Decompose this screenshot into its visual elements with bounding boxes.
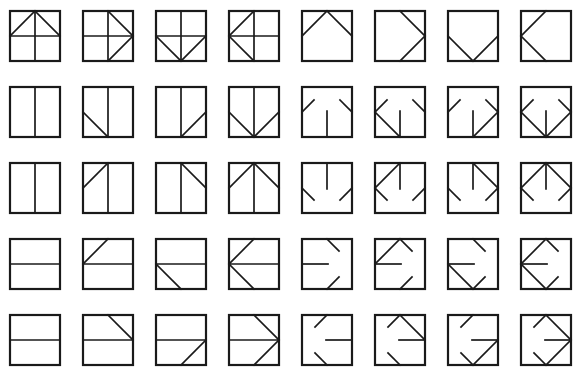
glyph-r1-c6 <box>374 10 426 62</box>
glyph-r2-c4 <box>228 86 280 138</box>
glyph-r1-c3 <box>155 10 207 62</box>
glyph-r5-c1 <box>9 314 61 366</box>
glyph-r2-c8 <box>520 86 572 138</box>
glyph-r1-c1 <box>9 10 61 62</box>
glyph-r4-c3 <box>155 238 207 290</box>
glyph-r2-c6 <box>374 86 426 138</box>
glyph-r3-c8 <box>520 162 572 214</box>
glyph-r3-c2 <box>82 162 134 214</box>
glyph-grid <box>0 0 576 373</box>
glyph-r4-c8 <box>520 238 572 290</box>
glyph-r5-c8 <box>520 314 572 366</box>
glyph-r2-c7 <box>447 86 499 138</box>
glyph-r5-c5 <box>301 314 353 366</box>
glyph-r2-c1 <box>9 86 61 138</box>
glyph-r3-c6 <box>374 162 426 214</box>
glyph-r1-c4 <box>228 10 280 62</box>
glyph-r2-c5 <box>301 86 353 138</box>
glyph-r3-c5 <box>301 162 353 214</box>
glyph-r4-c7 <box>447 238 499 290</box>
glyph-r4-c6 <box>374 238 426 290</box>
glyph-r1-c8 <box>520 10 572 62</box>
glyph-r3-c1 <box>9 162 61 214</box>
glyph-r2-c2 <box>82 86 134 138</box>
glyph-r4-c4 <box>228 238 280 290</box>
glyph-r5-c6 <box>374 314 426 366</box>
glyph-r1-c2 <box>82 10 134 62</box>
glyph-r5-c4 <box>228 314 280 366</box>
glyph-r3-c7 <box>447 162 499 214</box>
glyph-r4-c2 <box>82 238 134 290</box>
glyph-r3-c4 <box>228 162 280 214</box>
glyph-r5-c2 <box>82 314 134 366</box>
glyph-r2-c3 <box>155 86 207 138</box>
glyph-r1-c7 <box>447 10 499 62</box>
glyph-r4-c5 <box>301 238 353 290</box>
glyph-r5-c3 <box>155 314 207 366</box>
glyph-r4-c1 <box>9 238 61 290</box>
glyph-r5-c7 <box>447 314 499 366</box>
glyph-r3-c3 <box>155 162 207 214</box>
glyph-r1-c5 <box>301 10 353 62</box>
